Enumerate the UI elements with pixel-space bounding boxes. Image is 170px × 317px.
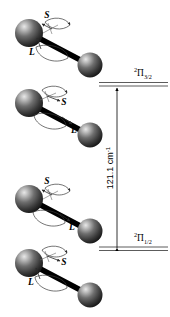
- molecule-3-atom-right: [78, 219, 103, 244]
- molecule-4-orbital-label: L: [27, 277, 34, 287]
- splitting-number-and-unit: 121.1 cm: [105, 152, 115, 189]
- molecule-2-orbital-label: L: [70, 125, 77, 135]
- molecule-2-atom-right: [78, 123, 103, 148]
- molecule-2-spin-label: S: [61, 97, 66, 107]
- lower-level-subscript: 1/2: [144, 238, 152, 245]
- molecule-3-orbital-label: L: [68, 222, 75, 232]
- upper-level-subscript: 3/2: [144, 73, 152, 80]
- molecule-1-orbital-label: L: [28, 47, 35, 57]
- spin-orbit-coupling-figure: S L S: [0, 0, 170, 317]
- molecule-4-atom-right: [78, 283, 103, 308]
- molecule-3-spin-label: S: [44, 176, 49, 186]
- molecule-4-atom-left: [15, 249, 43, 277]
- splitting-unit-exponent: -1: [105, 146, 111, 152]
- molecule-1-atom-right: [78, 53, 103, 78]
- splitting-value-group: 121.1 cm-1: [105, 146, 116, 189]
- molecule-1-spin-label: S: [44, 10, 49, 20]
- molecule-3-atom-left: [15, 185, 43, 213]
- splitting-value: 121.1 cm-1: [105, 146, 116, 189]
- molecule-4-spin-label: S: [61, 257, 66, 267]
- molecule-2-atom-left: [15, 89, 43, 117]
